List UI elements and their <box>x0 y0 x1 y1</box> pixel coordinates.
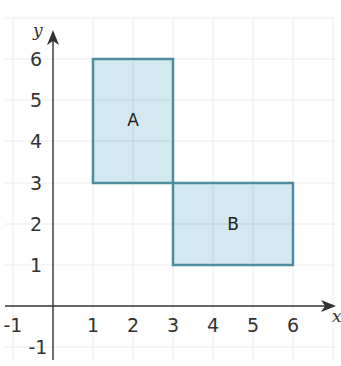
y-tick: -1 <box>29 336 48 358</box>
y-axis-label: y <box>32 20 43 40</box>
y-axis <box>47 30 59 360</box>
rectangle-b: B <box>173 183 293 265</box>
y-tick: 5 <box>30 89 42 111</box>
x-tick: 6 <box>287 314 299 336</box>
label-b: B <box>227 214 239 234</box>
y-tick: 6 <box>30 48 42 70</box>
x-tick: -1 <box>4 314 23 336</box>
x-axis <box>5 300 336 312</box>
label-a: A <box>127 110 139 130</box>
rectangle-a: A <box>93 59 173 183</box>
y-tick-labels: -1 1 2 3 4 5 6 <box>29 48 48 358</box>
y-tick: 1 <box>30 254 42 276</box>
x-tick: 3 <box>167 314 179 336</box>
x-axis-label: x <box>332 306 341 326</box>
y-tick: 4 <box>30 130 42 152</box>
x-tick: 4 <box>207 314 219 336</box>
coordinate-grid: A B x y -1 1 2 3 4 5 6 -1 1 2 3 4 5 <box>0 0 341 366</box>
y-tick: 2 <box>30 213 42 235</box>
x-tick: 1 <box>87 314 99 336</box>
x-tick: 5 <box>247 314 259 336</box>
x-tick: 2 <box>127 314 139 336</box>
x-tick-labels: -1 1 2 3 4 5 6 <box>4 314 300 336</box>
y-tick: 3 <box>30 172 42 194</box>
